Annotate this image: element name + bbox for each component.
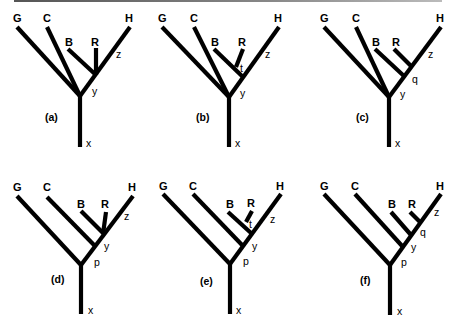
panel-caption-b: (b) bbox=[196, 111, 209, 123]
node-label-z: z bbox=[428, 48, 433, 60]
node-label-z: z bbox=[434, 206, 439, 218]
node-label-y: y bbox=[240, 87, 246, 99]
taxon-label-r: R bbox=[238, 36, 246, 48]
phylogenetic-trees-figure: G C B R H z y (a) x G C B R H t z y (b) … bbox=[0, 0, 456, 327]
node-label-q: q bbox=[420, 226, 426, 238]
taxon-label-c: C bbox=[43, 181, 51, 193]
branch-g bbox=[17, 196, 81, 265]
taxon-label-c: C bbox=[189, 180, 197, 192]
taxon-label-g: G bbox=[13, 12, 22, 24]
branch-r bbox=[410, 212, 420, 222]
node-label-p: p bbox=[401, 256, 407, 268]
taxon-label-h: H bbox=[436, 180, 444, 192]
branch-b bbox=[81, 211, 104, 234]
taxon-label-r: R bbox=[91, 36, 99, 48]
branch-g bbox=[163, 194, 230, 264]
branch-b bbox=[391, 212, 411, 235]
taxon-label-g: G bbox=[159, 180, 168, 192]
node-label-x: x bbox=[395, 137, 401, 149]
tree-panel-d: G C B R H z y p (d) x bbox=[13, 181, 136, 316]
panel-caption-f: (f) bbox=[360, 274, 371, 286]
node-label-y: y bbox=[400, 88, 406, 100]
taxon-label-h: H bbox=[274, 12, 282, 24]
branch-h bbox=[230, 194, 281, 264]
node-label-t: t bbox=[249, 218, 252, 230]
taxon-label-b: B bbox=[211, 36, 219, 48]
node-label-z: z bbox=[265, 48, 270, 60]
tree-panel-e: G C B R H t z y p (e) x bbox=[159, 180, 284, 316]
taxon-label-c: C bbox=[352, 12, 360, 24]
panel-caption-e: (e) bbox=[200, 275, 213, 287]
branch-c bbox=[47, 27, 80, 96]
panel-caption-a: (a) bbox=[45, 111, 58, 123]
node-label-x: x bbox=[236, 304, 242, 316]
branch-r bbox=[103, 212, 106, 234]
branch-b bbox=[68, 49, 96, 75]
node-label-x: x bbox=[86, 137, 92, 149]
taxon-label-h: H bbox=[125, 12, 133, 24]
node-label-x: x bbox=[88, 304, 94, 316]
taxon-label-b: B bbox=[77, 198, 85, 210]
taxon-label-b: B bbox=[226, 198, 234, 210]
taxon-label-g: G bbox=[158, 12, 167, 24]
panel-caption-c: (c) bbox=[356, 111, 369, 123]
taxon-label-b: B bbox=[65, 36, 73, 48]
node-label-t: t bbox=[240, 62, 243, 74]
tree-panel-a: G C B R H z y (a) x bbox=[13, 12, 133, 149]
node-label-y: y bbox=[411, 241, 417, 253]
taxon-label-b: B bbox=[372, 36, 380, 48]
node-label-y: y bbox=[252, 240, 258, 252]
taxon-label-r: R bbox=[101, 198, 109, 210]
taxon-label-c: C bbox=[43, 12, 51, 24]
taxon-label-h: H bbox=[128, 181, 136, 193]
branch-g bbox=[324, 194, 390, 265]
node-label-z: z bbox=[116, 48, 121, 60]
taxon-label-r: R bbox=[408, 198, 416, 210]
node-label-z: z bbox=[270, 213, 275, 225]
taxon-label-h: H bbox=[436, 12, 444, 24]
taxon-label-g: G bbox=[320, 180, 329, 192]
tree-panel-b: G C B R H t z y (b) x bbox=[158, 12, 282, 149]
node-label-q: q bbox=[412, 73, 418, 85]
branch-h bbox=[80, 27, 130, 96]
taxon-label-c: C bbox=[351, 180, 359, 192]
node-label-y: y bbox=[92, 85, 98, 97]
branch-r bbox=[394, 49, 411, 66]
taxon-label-r: R bbox=[392, 36, 400, 48]
taxon-label-h: H bbox=[276, 180, 284, 192]
tree-panel-f: G C B R H z q y p (f) x bbox=[320, 180, 444, 317]
taxon-label-g: G bbox=[13, 181, 22, 193]
node-label-z: z bbox=[124, 210, 129, 222]
taxon-label-g: G bbox=[320, 12, 329, 24]
taxon-label-r: R bbox=[247, 197, 255, 209]
taxon-label-b: B bbox=[388, 198, 396, 210]
node-label-y: y bbox=[104, 240, 110, 252]
node-label-x: x bbox=[397, 305, 403, 317]
panel-caption-d: (d) bbox=[51, 273, 64, 285]
node-label-p: p bbox=[94, 256, 100, 268]
taxon-label-c: C bbox=[190, 12, 198, 24]
node-label-p: p bbox=[243, 255, 249, 267]
node-label-x: x bbox=[235, 137, 241, 149]
tree-panel-c: G C B R H z q y (c) x bbox=[320, 12, 444, 149]
